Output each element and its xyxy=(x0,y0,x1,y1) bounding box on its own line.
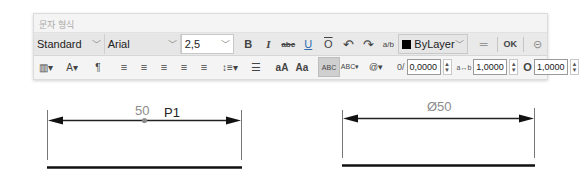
arrowhead-left-icon xyxy=(48,117,63,125)
grip-point-icon[interactable] xyxy=(142,118,147,123)
arrowhead-right-icon xyxy=(226,117,241,125)
drawing-canvas xyxy=(0,0,580,178)
left-dimension[interactable] xyxy=(47,110,242,168)
left-dimension-text[interactable]: 50 xyxy=(135,103,149,118)
right-dimension[interactable] xyxy=(342,108,535,166)
point-label: P1 xyxy=(164,105,180,120)
arrowhead-right-icon xyxy=(519,115,534,123)
arrowhead-left-icon xyxy=(343,115,358,123)
right-dimension-text[interactable]: Ø50 xyxy=(427,99,452,114)
